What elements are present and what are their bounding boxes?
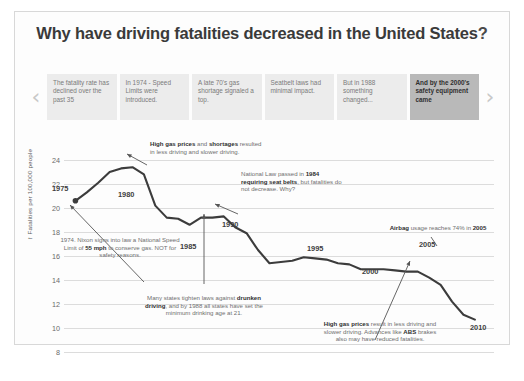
story-nav-card-4[interactable]: Seatbelt laws had minimal impact. xyxy=(265,74,335,120)
annotation-gas-prices-1979: High gas prices and shortages resulted i… xyxy=(150,140,262,155)
infographic-card: Why have driving fatalities decreased in… xyxy=(14,11,510,345)
story-nav: ‹ › The fatality rate has declined over … xyxy=(29,74,497,120)
leader-drunken-arrowhead xyxy=(202,214,206,219)
story-nav-card-3[interactable]: A late 70's gas shortage signaled a top. xyxy=(192,74,262,120)
story-nav-card-2[interactable]: In 1974 - Speed Limits were introduced. xyxy=(120,74,190,120)
year-label-2000: 2000 xyxy=(362,267,378,276)
chevron-left-icon[interactable]: ‹ xyxy=(29,83,43,111)
chart-plot-area: ↑ Fatalities per 100,000 people 24222018… xyxy=(32,132,494,372)
year-label-2005: 2005 xyxy=(419,240,435,249)
year-label-2010: 2010 xyxy=(470,323,486,332)
screenshot-root: Why have driving fatalities decreased in… xyxy=(0,0,524,381)
story-nav-card-1[interactable]: The fatality rate has declined over the … xyxy=(47,74,117,120)
year-label-1995: 1995 xyxy=(307,244,323,253)
annotation-gas-prices-abs-2008: High gas prices result in less driving a… xyxy=(321,320,439,343)
year-label-1980: 1980 xyxy=(118,190,134,199)
annotation-airbag-usage-2005: Airbag usage reaches 74% in 2005 xyxy=(384,224,492,232)
annotation-nixon-speed-limit-1974: 1974. Nixon signs into law a National Sp… xyxy=(56,236,184,259)
page-title-text: Why have driving fatalities decreased in… xyxy=(36,24,477,42)
story-nav-card-5[interactable]: But in 1988 something changed... xyxy=(337,74,407,120)
chevron-right-icon[interactable]: › xyxy=(483,83,497,111)
annotation-drunken-driving-laws-1988: Many states tighten laws against drunken… xyxy=(142,294,266,317)
series-marker-1975 xyxy=(73,198,79,204)
year-label-1975: 1975 xyxy=(52,184,68,193)
page-title: Why have driving fatalities decreased in… xyxy=(15,24,509,43)
story-nav-card-6[interactable]: And by the 2000's safety equipment came xyxy=(410,74,480,120)
annotation-seat-belt-law-1984: National Law passed in 1984 requiring se… xyxy=(241,170,345,193)
story-nav-cards: The fatality rate has declined over the … xyxy=(47,74,479,120)
page-title-question-mark: ? xyxy=(478,24,488,42)
year-label-1990: 1990 xyxy=(222,220,238,229)
